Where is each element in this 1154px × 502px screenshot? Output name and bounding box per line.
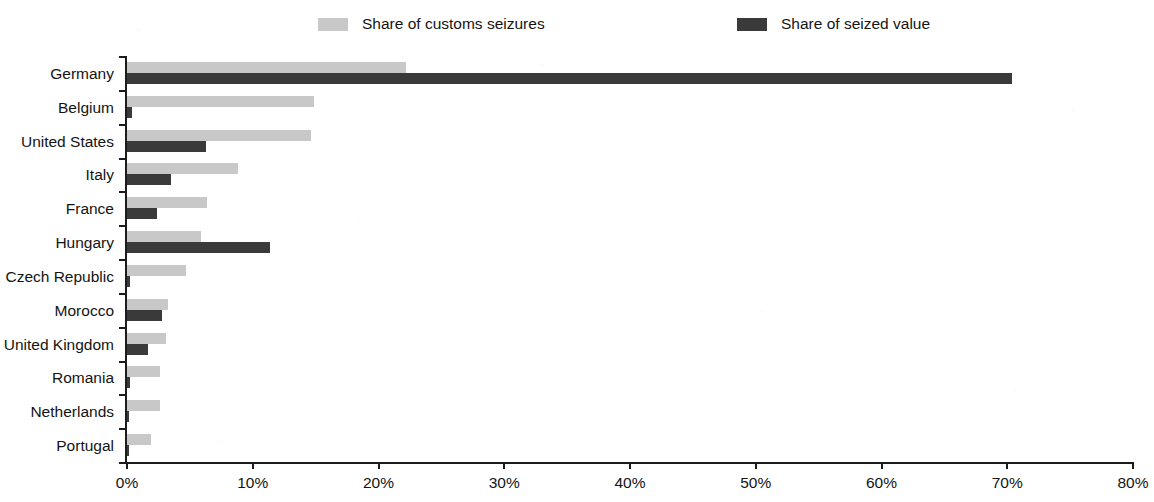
y-axis-category-label: Hungary (55, 234, 114, 251)
y-axis-tick (119, 90, 126, 92)
x-axis-tick-label: 70% (992, 474, 1023, 492)
y-axis-category-label: Czech Republic (5, 267, 114, 284)
legend-item: Share of customs seizures (318, 14, 545, 34)
chart-bar (127, 377, 130, 388)
chart-bar (127, 310, 162, 321)
chart-bar (127, 445, 129, 456)
y-axis-tick (119, 361, 126, 363)
chart-category-row: United Kingdom (127, 327, 1133, 361)
x-axis-tick (1006, 462, 1008, 469)
chart-bar (127, 276, 130, 287)
x-axis-tick-label: 10% (237, 474, 268, 492)
chart-bar (127, 299, 168, 310)
x-axis-tick (503, 462, 505, 469)
chart-bar (127, 366, 160, 377)
chart-bar (127, 400, 160, 411)
x-axis-tick-label: 50% (740, 474, 771, 492)
chart-bar (127, 242, 270, 253)
chart-category-row: United States (127, 124, 1133, 158)
x-axis-tick (881, 462, 883, 469)
legend-item: Share of seized value (737, 14, 930, 34)
legend-label: Share of seized value (781, 16, 930, 32)
chart-category-row: Italy (127, 158, 1133, 192)
x-axis-tick (629, 462, 631, 469)
x-axis-tick (252, 462, 254, 469)
chart-bar (127, 141, 206, 152)
y-axis-tick (119, 327, 126, 329)
y-axis-tick (119, 56, 126, 58)
chart-category-row: Portugal (127, 428, 1133, 462)
y-axis-category-label: Romania (52, 369, 114, 386)
y-axis-category-label: Netherlands (30, 403, 114, 420)
y-axis-category-label: United Kingdom (4, 335, 114, 352)
x-axis-tick-label: 60% (866, 474, 897, 492)
chart-category-row: France (127, 191, 1133, 225)
chart-bar (127, 231, 201, 242)
y-axis-tick (119, 428, 126, 430)
y-axis-category-label: Italy (86, 166, 114, 183)
chart-bar (127, 197, 207, 208)
y-axis-category-label: Portugal (56, 437, 114, 454)
y-axis-tick (119, 462, 126, 464)
bar-chart-figure: Share of customs seizuresShare of seized… (0, 0, 1154, 502)
chart-bar (127, 344, 148, 355)
x-axis-tick-label: 0% (116, 474, 138, 492)
chart-bar (127, 333, 166, 344)
y-axis-category-label: Belgium (58, 98, 114, 115)
y-axis-category-label: Germany (50, 64, 114, 81)
chart-bar (127, 107, 132, 118)
x-axis-tick-label: 40% (614, 474, 645, 492)
legend-label: Share of customs seizures (362, 16, 545, 32)
chart-bar (127, 130, 311, 141)
y-axis-tick (119, 124, 126, 126)
x-axis-tick (378, 462, 380, 469)
legend-swatch-icon (737, 18, 767, 31)
chart-category-row: Romania (127, 361, 1133, 395)
y-axis-tick (119, 293, 126, 295)
y-axis-category-label: Morocco (55, 301, 114, 318)
y-axis-tick (119, 394, 126, 396)
y-axis-category-label: France (66, 200, 114, 217)
chart-category-row: Germany (127, 56, 1133, 90)
x-axis-tick-label: 80% (1117, 474, 1148, 492)
chart-bar (127, 411, 129, 422)
x-axis-tick-label: 30% (489, 474, 520, 492)
chart-bar (127, 73, 1012, 84)
chart-category-row: Netherlands (127, 394, 1133, 428)
legend-swatch-icon (318, 18, 348, 31)
chart-category-row: Hungary (127, 225, 1133, 259)
plot-area: GermanyBelgiumUnited StatesItalyFranceHu… (127, 56, 1133, 462)
y-axis-tick (119, 158, 126, 160)
chart-bar (127, 163, 238, 174)
chart-category-row: Czech Republic (127, 259, 1133, 293)
chart-category-row: Belgium (127, 90, 1133, 124)
x-axis-tick (755, 462, 757, 469)
x-axis-tick (126, 462, 128, 469)
chart-bar (127, 434, 151, 445)
x-axis-tick (1132, 462, 1134, 469)
chart-legend: Share of customs seizuresShare of seized… (0, 0, 1154, 46)
chart-category-row: Morocco (127, 293, 1133, 327)
y-axis-tick (119, 259, 126, 261)
chart-bar (127, 96, 314, 107)
chart-bar (127, 208, 157, 219)
y-axis-category-label: United States (21, 132, 114, 149)
y-axis-tick (119, 191, 126, 193)
chart-bar (127, 62, 406, 73)
chart-bar (127, 265, 186, 276)
x-axis-tick-label: 20% (363, 474, 394, 492)
chart-bar (127, 174, 171, 185)
y-axis-tick (119, 225, 126, 227)
